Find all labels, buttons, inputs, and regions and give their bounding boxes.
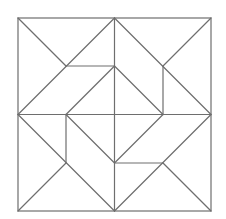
tr-corner-diagonal-line xyxy=(163,18,211,66)
br-corner-diagonal-line xyxy=(163,163,211,211)
tl-corner-diagonal-line xyxy=(18,18,66,66)
br-parallel-line xyxy=(115,115,164,164)
tl-parallel-line xyxy=(66,66,115,115)
bl-corner-diagonal-line xyxy=(18,163,66,211)
quilt-pattern-diagram xyxy=(0,0,226,219)
bl-parallel-line xyxy=(66,115,115,164)
tr-parallel-line xyxy=(115,66,164,115)
pattern-lines xyxy=(18,18,211,211)
